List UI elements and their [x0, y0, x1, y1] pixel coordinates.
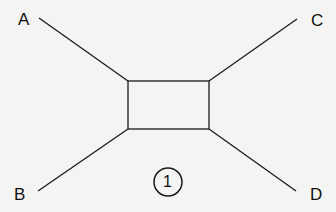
center-rectangle — [128, 81, 209, 129]
line-b — [38, 129, 128, 191]
label-d: D — [310, 186, 322, 203]
diagram-canvas: A C B D 1 — [0, 0, 336, 212]
label-b: B — [14, 186, 25, 203]
line-a — [39, 18, 128, 81]
label-a: A — [18, 11, 29, 28]
label-c: C — [311, 12, 323, 29]
line-d — [209, 129, 296, 191]
figure-number: 1 — [163, 174, 172, 190]
line-c — [209, 19, 297, 81]
